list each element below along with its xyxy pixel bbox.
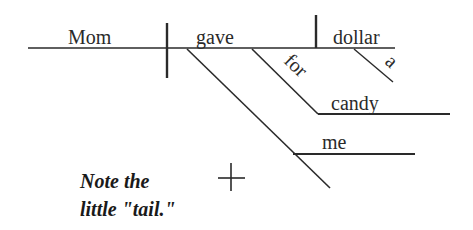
note-line-1: Note the (79, 170, 150, 192)
word-subject: Mom (68, 26, 112, 48)
word-prepositional-object: candy (331, 92, 379, 115)
word-verb: gave (196, 26, 234, 49)
sentence-diagram: Mom gave dollar candy me for a Note the … (0, 0, 473, 230)
word-object-modifier: a (381, 50, 402, 72)
indirect-object-diagonal (187, 49, 330, 188)
word-direct-object: dollar (333, 26, 380, 48)
word-preposition: for (280, 49, 312, 81)
note-line-2: little "tail." (80, 198, 176, 220)
word-indirect-object: me (322, 131, 347, 153)
